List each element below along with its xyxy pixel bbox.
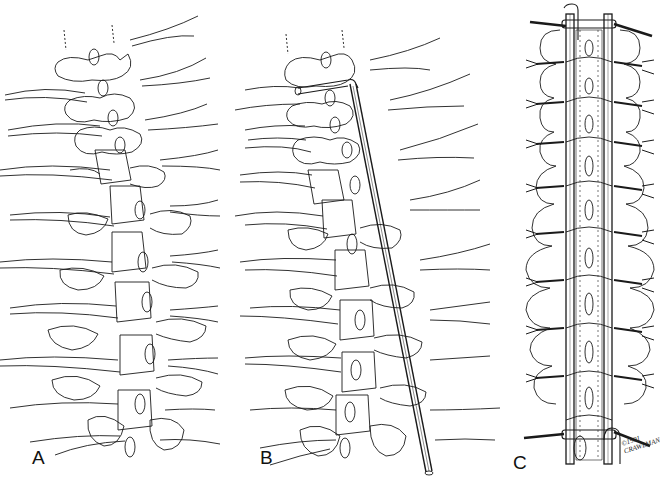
panel-c: C ©1991 CRAWLMAN [510, 0, 670, 479]
spinal-fixation-illustration: A [0, 0, 670, 479]
panel-a: A [0, 0, 230, 479]
spine-drawing-b [230, 0, 510, 479]
spine-drawing-a [0, 0, 230, 479]
panel-label-a: A [32, 447, 45, 469]
panel-b: B [230, 0, 510, 479]
panel-label-b: B [260, 447, 273, 469]
panel-label-c: C [513, 452, 527, 474]
spine-drawing-c [510, 0, 670, 479]
